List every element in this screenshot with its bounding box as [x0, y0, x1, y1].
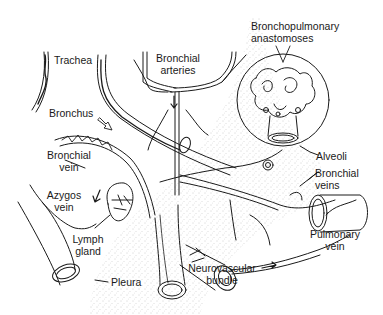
vessel-knot [178, 136, 193, 154]
pulmonary-vein-vessel [309, 195, 368, 232]
azygos-arrow-icon [93, 190, 100, 202]
lymph-gland [107, 183, 133, 221]
label-line: arteries [148, 64, 208, 76]
label-bronchial-arteries: Bronchial arteries [148, 52, 208, 76]
label-alveoli: Alveoli [316, 150, 347, 162]
label-pleura: Pleura [111, 276, 141, 288]
down-arrow-icon [171, 96, 177, 108]
label-line: bundle [184, 274, 260, 286]
label-neurovascular-bundle: Neurovascular bundle [184, 262, 260, 286]
label-lymph-gland: Lymph gland [70, 233, 106, 257]
label-line: vein [44, 161, 94, 173]
label-line: Lymph [70, 233, 106, 245]
label-line: vein [300, 240, 370, 252]
label-bronchial-veins: Bronchial veins [315, 167, 359, 191]
label-azygos-vein: Azygos vein [42, 189, 86, 213]
label-line: Bronchopulmonary [251, 20, 339, 32]
label-bronchopulmonary-anastomoses: Bronchopulmonary anastomoses [251, 20, 339, 44]
label-bronchus: Bronchus [49, 107, 93, 119]
label-line: Bronchial [148, 52, 208, 64]
label-line: Pulmonary [300, 228, 370, 240]
label-trachea: Trachea [54, 54, 92, 66]
label-line: anastomoses [251, 32, 339, 44]
label-line: Neurovascular [184, 262, 260, 274]
trachea [32, 52, 49, 112]
bronchus-arrow-icon [98, 118, 112, 130]
label-line: gland [70, 245, 106, 257]
lymph-leader [95, 215, 110, 228]
label-line: veins [315, 179, 359, 191]
label-pulmonary-vein: Pulmonary vein [300, 228, 370, 252]
label-bronchial-vein: Bronchial vein [44, 149, 94, 173]
label-line: Bronchial [315, 167, 359, 179]
label-line: Azygos [42, 189, 86, 201]
label-line: Bronchial [44, 149, 94, 161]
label-line: vein [42, 201, 86, 213]
